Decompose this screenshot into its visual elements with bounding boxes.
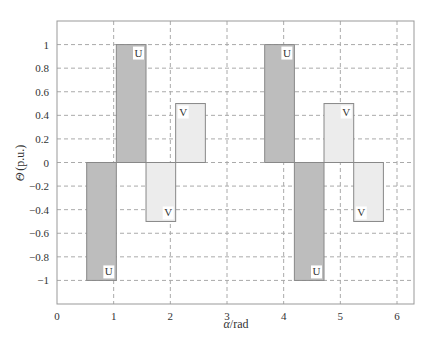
y-tick-label: 0 xyxy=(44,157,50,169)
bar-label: V xyxy=(164,206,172,218)
x-axis-label: α/rad xyxy=(224,317,249,331)
y-tick-label: 0.8 xyxy=(35,62,49,74)
x-tick-label: 5 xyxy=(338,310,344,322)
bar-label: U xyxy=(283,47,291,59)
y-tick-label: 0.4 xyxy=(35,109,49,121)
bar-u xyxy=(294,163,324,281)
x-tick-label: 0 xyxy=(54,310,60,322)
chart: UUUUVVVV 0123456 10.80.60.40.20−0.2−0.4−… xyxy=(0,0,437,350)
bar-label: U xyxy=(135,47,143,59)
y-tick-label: −1 xyxy=(37,274,49,286)
bar-label: V xyxy=(342,106,350,118)
y-tick-label: −0.6 xyxy=(29,227,49,239)
bar-u xyxy=(116,45,146,163)
bar-label: V xyxy=(179,106,187,118)
bar-u xyxy=(265,45,295,163)
bar-label: U xyxy=(105,265,113,277)
y-tick-label: −0.8 xyxy=(29,251,49,263)
x-tick-label: 1 xyxy=(111,310,117,322)
x-tick-label: 4 xyxy=(281,310,287,322)
bar-label: U xyxy=(313,265,321,277)
y-tick-label: 0.6 xyxy=(35,86,49,98)
bar-u xyxy=(87,163,117,281)
y-tick-label: 0.2 xyxy=(35,133,49,145)
y-axis-ticks: 10.80.60.40.20−0.2−0.4−0.6−0.8−1 xyxy=(29,39,49,287)
y-tick-label: −0.4 xyxy=(29,204,49,216)
bar-label: V xyxy=(357,206,365,218)
y-tick-label: −0.2 xyxy=(29,180,49,192)
x-tick-label: 6 xyxy=(394,310,400,322)
y-axis-label: Θ(p.u.) xyxy=(13,145,27,182)
y-tick-label: 1 xyxy=(44,39,50,51)
x-tick-label: 2 xyxy=(168,310,174,322)
